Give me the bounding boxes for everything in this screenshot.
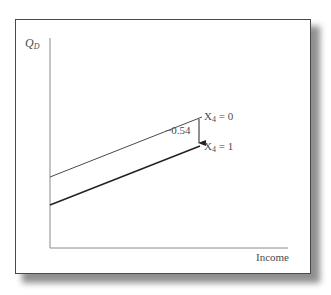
legend-label-x4-equals-1: X4 = 1 [204, 141, 233, 154]
line-x4-equals-1 [50, 146, 200, 205]
difference-annotation: −0.54 [165, 125, 190, 136]
legend-label-x4-equals-0: X4 = 0 [204, 111, 233, 124]
y-axis-label: QD [25, 37, 39, 51]
x-axis-label: Income [256, 252, 289, 263]
